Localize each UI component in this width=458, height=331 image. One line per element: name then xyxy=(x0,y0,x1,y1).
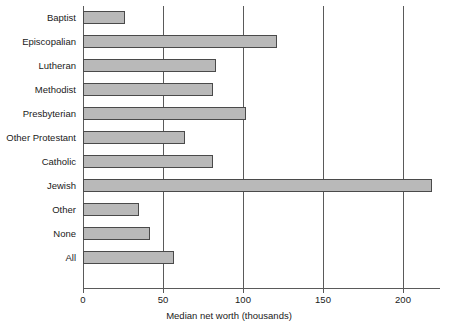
x-tick-100 xyxy=(243,288,244,293)
bar-row: Catholic xyxy=(0,150,458,174)
category-label: Other xyxy=(0,198,76,222)
category-label: Episcopalian xyxy=(0,30,76,54)
bar-row: Jewish xyxy=(0,174,458,198)
bar-baptist xyxy=(83,11,125,24)
category-label: Methodist xyxy=(0,78,76,102)
x-tick-label: 100 xyxy=(223,294,263,305)
bar-row: Other Protestant xyxy=(0,126,458,150)
category-label: Jewish xyxy=(0,174,76,198)
x-tick-label: 150 xyxy=(303,294,343,305)
category-label: Baptist xyxy=(0,6,76,30)
bar-catholic xyxy=(83,155,213,168)
bar-row: All xyxy=(0,246,458,270)
x-tick-label: 200 xyxy=(383,294,423,305)
x-axis-title: Median net worth (thousands) xyxy=(0,310,458,321)
category-label: Lutheran xyxy=(0,54,76,78)
category-label: Other Protestant xyxy=(0,126,76,150)
bar-row: Lutheran xyxy=(0,54,458,78)
bar-chart: BaptistEpiscopalianLutheranMethodistPres… xyxy=(0,0,458,331)
bar-row: Baptist xyxy=(0,6,458,30)
bar-other-protestant xyxy=(83,131,185,144)
x-tick-150 xyxy=(323,288,324,293)
bar-episcopalian xyxy=(83,35,277,48)
bar-presbyterian xyxy=(83,107,246,120)
bar-methodist xyxy=(83,83,213,96)
category-label: All xyxy=(0,246,76,270)
x-tick-label: 0 xyxy=(63,294,103,305)
bar-row: Methodist xyxy=(0,78,458,102)
bar-row: Other xyxy=(0,198,458,222)
x-axis-line xyxy=(83,288,440,289)
bar-other xyxy=(83,203,139,216)
category-label: Presbyterian xyxy=(0,102,76,126)
x-tick-label: 50 xyxy=(143,294,183,305)
category-label: None xyxy=(0,222,76,246)
bar-jewish xyxy=(83,179,432,192)
bar-all xyxy=(83,251,174,264)
category-label: Catholic xyxy=(0,150,76,174)
bar-none xyxy=(83,227,150,240)
x-tick-50 xyxy=(163,288,164,293)
x-tick-200 xyxy=(403,288,404,293)
bar-row: Presbyterian xyxy=(0,102,458,126)
bar-row: Episcopalian xyxy=(0,30,458,54)
bar-lutheran xyxy=(83,59,216,72)
x-tick-0 xyxy=(83,288,84,293)
bar-row: None xyxy=(0,222,458,246)
